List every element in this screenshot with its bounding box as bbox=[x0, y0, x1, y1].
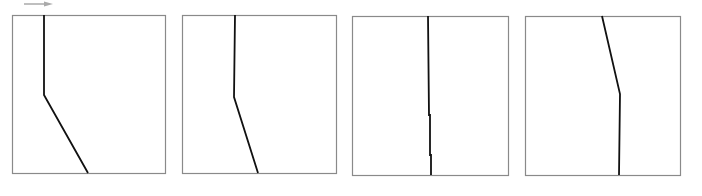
panel-4 bbox=[526, 16, 681, 176]
profile-line bbox=[602, 16, 620, 175]
panel-2 bbox=[183, 15, 337, 174]
profile-line bbox=[428, 16, 431, 175]
arrow-icon bbox=[24, 2, 53, 7]
panel-1 bbox=[13, 15, 166, 174]
panels-diagram bbox=[0, 0, 702, 196]
profile-line bbox=[44, 15, 88, 173]
panel-frame bbox=[13, 16, 166, 174]
panel-3 bbox=[353, 16, 509, 176]
panel-frame bbox=[526, 17, 681, 176]
profile-line bbox=[234, 15, 258, 173]
panel-frame bbox=[183, 16, 337, 174]
